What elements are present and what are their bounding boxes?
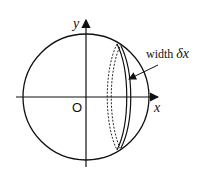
- y-axis-label: y: [71, 16, 80, 31]
- width-label: width δx: [146, 46, 190, 61]
- sphere-slice-diagram: width δx y x O: [0, 0, 205, 176]
- x-axis-label: x: [153, 100, 161, 115]
- width-arrow: [129, 65, 158, 79]
- origin-label: O: [72, 100, 82, 115]
